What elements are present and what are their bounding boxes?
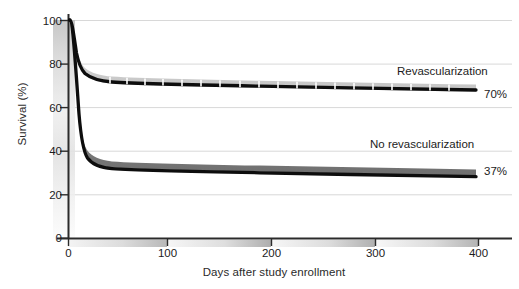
no-revascularization-line: [70, 20, 477, 177]
x-tick-300: 300: [346, 247, 406, 259]
y-tick-100: 100: [28, 15, 62, 27]
x-tick-400: 400: [449, 247, 509, 259]
y-tick-80: 80: [28, 58, 62, 70]
x-axis-title: Days after study enrollment: [68, 266, 480, 278]
revascularization-band: [71, 20, 477, 92]
x-tick-labels: 0 100 200 300 400: [0, 247, 519, 265]
y-tick-labels: 100 80 60 40 20 0: [22, 0, 62, 289]
survival-curve-figure: 100 80 60 40 20 0 0 100 200 300 400 Surv…: [0, 0, 519, 289]
y-axis-title: Survival (%): [16, 59, 28, 169]
no-revascularization-end-value: 37%: [484, 165, 507, 177]
x-tick-100: 100: [138, 247, 198, 259]
revascularization-label: Revascularization: [397, 65, 488, 77]
series-no-revascularization: [70, 20, 477, 177]
x-tick-200: 200: [242, 247, 302, 259]
y-tick-0: 0: [28, 232, 62, 244]
no-revascularization-band: [70, 20, 476, 176]
revascularization-end-value: 70%: [484, 88, 507, 100]
series-revascularization: [70, 20, 476, 92]
no-revascularization-label: No revascularization: [370, 138, 474, 150]
y-tick-20: 20: [28, 189, 62, 201]
y-tick-60: 60: [28, 102, 62, 114]
x-tick-0: 0: [39, 247, 99, 259]
bottom-gradient-strips: [68, 240, 478, 247]
y-tick-40: 40: [28, 145, 62, 157]
